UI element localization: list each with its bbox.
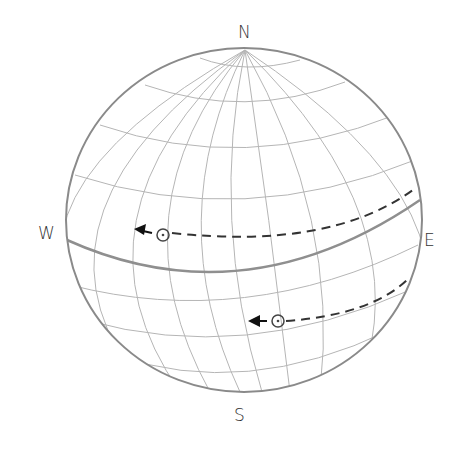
meridian <box>60 50 245 340</box>
south-label: S <box>234 405 245 425</box>
globe-diagram <box>0 0 463 449</box>
arrow-left-icon <box>248 315 267 327</box>
north-label: N <box>238 22 251 42</box>
west-label: W <box>38 223 55 243</box>
upper-sun-path <box>172 190 413 237</box>
globe-outline <box>66 48 422 392</box>
east-label: E <box>424 230 435 250</box>
arrow-left-icon <box>134 224 152 235</box>
sun-center-dot <box>277 320 280 323</box>
sun-center-dot <box>162 234 165 237</box>
